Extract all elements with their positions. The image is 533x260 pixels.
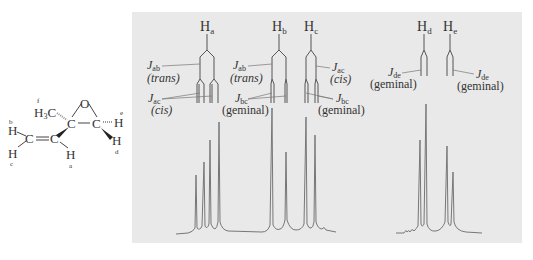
coupling-type-trans-hb: (trans) bbox=[230, 71, 263, 85]
label-hc: Hc bbox=[304, 19, 318, 36]
label-hd: Hd bbox=[417, 19, 432, 36]
leader-jac-hc bbox=[316, 66, 330, 68]
coupling-type-trans-ha: (trans) bbox=[147, 71, 180, 85]
leader-jbc-hc-2 bbox=[318, 96, 333, 99]
splitting-tree-ha bbox=[197, 34, 218, 103]
coupling-type-cis-hc: (cis) bbox=[330, 72, 351, 86]
spectrum-trace-vinyl bbox=[176, 108, 336, 234]
splitting-tree-hd bbox=[421, 34, 427, 76]
coupling-type-geminal-hc: (geminal) bbox=[318, 103, 365, 117]
leader-jab-hb bbox=[248, 64, 272, 66]
nmr-diagram: Ha Jab (trans) Jac (cis) Hb Jab (trans) … bbox=[0, 0, 533, 260]
splitting-tree-hb bbox=[271, 34, 287, 103]
leader-jab-ha bbox=[162, 64, 200, 66]
leader-jde-he bbox=[453, 70, 474, 74]
spectrum-trace-epoxide bbox=[396, 104, 482, 233]
coupling-type-geminal-hd: (geminal) bbox=[370, 77, 417, 91]
coupling-type-geminal-hb: (geminal) bbox=[222, 103, 269, 117]
coupling-type-cis-ha: (cis) bbox=[151, 103, 172, 117]
splitting-tree-hc bbox=[305, 34, 318, 103]
splitting-tree-he bbox=[447, 34, 453, 76]
leader-jde-hd bbox=[402, 70, 421, 73]
label-he: He bbox=[443, 19, 457, 36]
label-ha: Ha bbox=[200, 19, 214, 36]
coupling-type-geminal-he: (geminal) bbox=[457, 79, 504, 93]
label-hb: Hb bbox=[272, 19, 287, 36]
